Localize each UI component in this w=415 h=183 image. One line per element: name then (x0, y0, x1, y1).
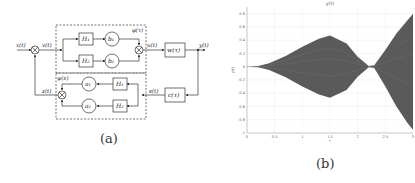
y-tick-label: 0.8 (239, 12, 245, 16)
text-H2-top: H₂ (81, 57, 90, 64)
label-v: v(t) (42, 42, 52, 48)
y-tick-label: 0.6 (239, 25, 245, 29)
y-tick-label: 0.4 (239, 38, 245, 42)
x-tick-label: 3 (412, 135, 414, 139)
text-H2-bottom: H₂ (115, 102, 124, 109)
text-a1: a₁ (85, 80, 91, 87)
x-tick-label: 2 (357, 135, 359, 139)
x-tick-label: 0 (246, 135, 249, 139)
y-tick-label: -0.6 (238, 105, 246, 109)
label-y: y(t) (198, 42, 209, 49)
label-z: z(t) (41, 88, 51, 94)
lower-dashed-box (56, 73, 146, 119)
x-tick-label: 1 (301, 135, 303, 139)
label-x: x(t) (16, 42, 26, 48)
figure: x(t) v(t) φ(τ) u(t) y(t) z(t) ψ(ε) s(t) … (0, 0, 415, 183)
chart-title: y(t) (326, 1, 334, 6)
label-u: u(t) (147, 42, 157, 48)
text-c: c(τ) (168, 91, 180, 98)
text-w: w(τ) (167, 46, 181, 53)
x-axis-label: t (329, 139, 331, 143)
chart-y-of-t: 0.80.60.40.20-0.2-0.4-0.6-0.8-100.511.52… (231, 1, 414, 143)
y-tick-label: 0 (243, 65, 246, 69)
x-tick-label: 0.5 (272, 135, 278, 139)
caption-b: (b) (316, 156, 334, 171)
label-psi: ψ(ε) (57, 75, 69, 82)
label-s: s(t) (149, 88, 158, 94)
y-tick-label: 0.2 (239, 52, 245, 56)
caption-a: (a) (100, 131, 118, 146)
label-phi: φ(τ) (132, 27, 143, 34)
text-a2: a₂ (85, 102, 92, 109)
y-tick-label: -1 (241, 131, 245, 135)
y-tick-label: -0.8 (238, 118, 246, 122)
x-tick-label: 2.5 (382, 135, 388, 139)
text-b1: b₁ (108, 35, 114, 42)
text-H1-bottom: H₁ (115, 80, 124, 87)
text-b2: b₂ (108, 57, 115, 64)
y-tick-label: -0.4 (238, 91, 246, 95)
y-axis-label: y(t) (231, 66, 235, 73)
text-H1-top: H₁ (81, 35, 90, 42)
y-tick-label: -0.2 (238, 78, 245, 82)
